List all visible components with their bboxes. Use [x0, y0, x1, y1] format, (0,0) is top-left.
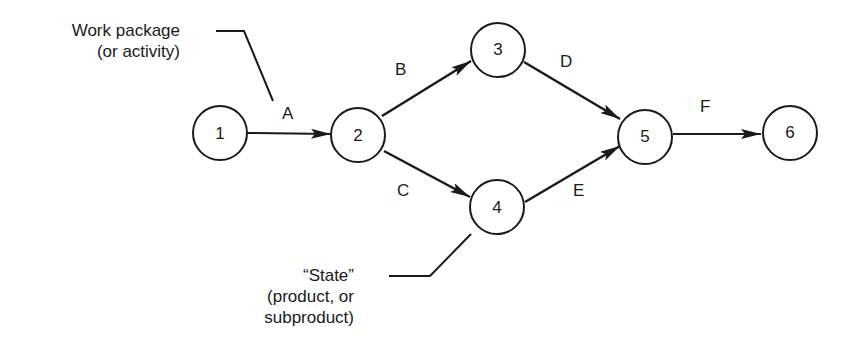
node-1-label: 1	[193, 124, 247, 144]
work-package-annotation: Work package (or activity)	[40, 20, 180, 62]
work-package-line2: (or activity)	[40, 41, 180, 62]
node-6-label: 6	[763, 123, 817, 143]
edge-d-label: D	[560, 52, 572, 72]
edge-a-arrow	[247, 133, 331, 134]
edge-c-label: C	[397, 181, 409, 201]
state-line2: (product, or	[240, 286, 354, 307]
node-2-label: 2	[331, 126, 385, 146]
edge-e-label: E	[573, 181, 584, 201]
state-annotation: “State” (product, or subproduct)	[240, 265, 354, 328]
state-line1: “State”	[240, 265, 354, 286]
edge-b-label: B	[395, 60, 406, 80]
node-5-label: 5	[618, 127, 672, 147]
work-package-leader-line	[216, 31, 273, 101]
state-line3: subproduct)	[240, 307, 354, 328]
node-3-label: 3	[471, 40, 525, 60]
edge-a-label: A	[282, 104, 293, 124]
node-4-label: 4	[470, 198, 524, 218]
work-package-line1: Work package	[40, 20, 180, 41]
edge-f-label: F	[700, 97, 710, 117]
state-leader-line	[389, 234, 471, 276]
